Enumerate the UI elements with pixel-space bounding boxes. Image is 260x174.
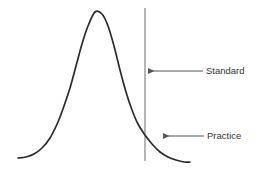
distribution-figure: Standard Practice [0,0,260,174]
figure-canvas: Standard Practice [0,0,260,174]
standard-label: Standard [206,65,245,76]
practice-label: Practice [207,130,241,141]
figure-background [0,0,260,174]
